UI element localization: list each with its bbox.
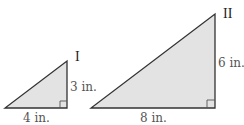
triangle-ii-horizontal-leg-label: 8 in. (140, 111, 167, 125)
triangle-i-horizontal-leg-label: 4 in. (23, 111, 50, 125)
triangle-ii-shape (91, 14, 215, 108)
triangle-ii-vertical-leg-label: 6 in. (218, 56, 244, 70)
triangle-i-vertical-leg-label: 3 in. (70, 80, 97, 94)
triangle-i-label: I (75, 49, 80, 64)
triangle-ii-label: II (223, 6, 233, 21)
triangle-i: I 3 in. 4 in. (5, 49, 97, 125)
similar-triangles-diagram: I 3 in. 4 in. II 6 in. 8 in. (0, 0, 244, 125)
triangle-i-shape (5, 61, 67, 108)
triangle-ii: II 6 in. 8 in. (91, 6, 244, 125)
